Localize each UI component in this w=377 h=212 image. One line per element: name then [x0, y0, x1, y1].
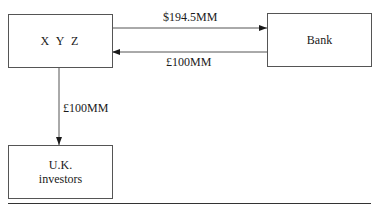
edge-label-xyz-to-bank: $194.5MM — [163, 10, 217, 25]
node-uk-investors-label-line1: U.K. — [49, 158, 72, 172]
node-bank: Bank — [267, 13, 372, 67]
node-xyz: X Y Z — [8, 14, 113, 68]
node-bank-label: Bank — [307, 33, 332, 47]
edge-label-xyz-to-uk-investors: £100MM — [63, 101, 108, 116]
bottom-rule — [8, 203, 371, 204]
edge-label-bank-to-xyz: £100MM — [166, 55, 211, 70]
node-uk-investors: U.K. investors — [8, 145, 113, 199]
node-xyz-label: X Y Z — [41, 34, 81, 48]
node-uk-investors-label-line2: investors — [39, 172, 82, 186]
